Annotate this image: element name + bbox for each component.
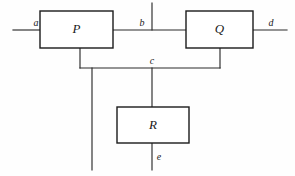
signal-label-b: b	[140, 17, 145, 28]
block-r-label: R	[148, 117, 157, 132]
block-r: R	[117, 107, 189, 143]
block-q: Q	[186, 11, 253, 48]
block-p-label: P	[72, 21, 81, 36]
block-p: P	[40, 11, 113, 48]
diagram-canvas: P Q R a b c d e	[0, 0, 295, 176]
signal-label-e: e	[157, 151, 162, 162]
block-q-label: Q	[215, 21, 225, 36]
signal-label-c: c	[150, 55, 155, 66]
signal-label-d: d	[269, 17, 275, 28]
signal-label-a: a	[34, 17, 39, 28]
block-diagram-svg: P Q R a b c d e	[0, 0, 295, 176]
